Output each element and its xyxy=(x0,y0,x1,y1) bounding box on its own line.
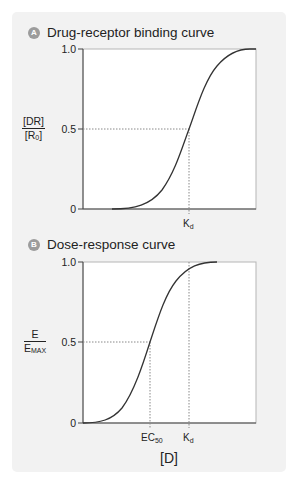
panel-a-plot-area xyxy=(83,49,256,209)
panel-b-ytick-0: 0 xyxy=(70,417,76,429)
panel-a-ytick-1: 1.0 xyxy=(61,43,76,55)
panel-b-ytick-05: 0.5 xyxy=(61,336,76,348)
chart-canvas: 1.0 0.5 0 1.0 0.5 0 xyxy=(0,0,290,484)
panel-b-plot-area xyxy=(83,262,256,423)
panel-b-kd-label: Kd xyxy=(183,432,194,444)
panel-a-ytick-05: 0.5 xyxy=(61,123,76,135)
panel-a-kd-label: Kd xyxy=(183,218,194,230)
panel-b-xaxis-title: [D] xyxy=(160,450,178,466)
panel-a-ytick-0: 0 xyxy=(70,203,76,215)
panel-b-ytick-1: 1.0 xyxy=(61,256,76,268)
panel-b-ec50-label: EC50 xyxy=(141,432,163,444)
